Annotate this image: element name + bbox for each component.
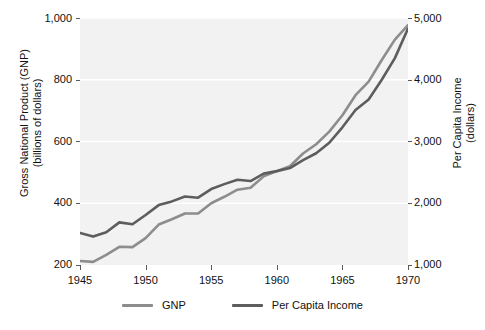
x-tick-label-1960: 1960 (247, 275, 307, 286)
legend-label-gnp: GNP (162, 300, 186, 311)
series-line-per-capita-income (80, 29, 408, 237)
y2-tickmark-5000 (408, 18, 412, 19)
x-tickmark-1960 (277, 265, 278, 270)
y-tick-label-200: 200 (12, 259, 72, 270)
chart-container: 200 400 600 800 1,000 1,000 2,000 3,000 … (0, 0, 485, 330)
x-tick-label-1965: 1965 (312, 275, 372, 286)
y-tick-label-1000: 1,000 (12, 13, 72, 24)
y2-tick-label-5000: 5,000 (414, 13, 442, 24)
plot-canvas (80, 18, 408, 265)
y2-axis-title: Per Capita Income(dollars) (451, 28, 477, 218)
x-tick-label-1945: 1945 (50, 275, 110, 286)
x-tick-label-1955: 1955 (181, 275, 241, 286)
y-tickmark-800 (76, 80, 80, 81)
x-tickmark-1965 (342, 265, 343, 270)
y2-tickmark-2000 (408, 203, 412, 204)
legend-item-per-capita-income[interactable]: Per Capita Income (232, 300, 363, 311)
x-tickmark-1950 (146, 265, 147, 270)
y-tickmark-400 (76, 203, 80, 204)
gridlines (80, 18, 408, 203)
y2-tickmark-4000 (408, 80, 412, 81)
y2-tick-label-4000: 4,000 (414, 74, 442, 85)
y-axis-title: GNP Gross National Product (GNP)(billion… (18, 28, 44, 218)
x-tickmark-1945 (80, 265, 81, 270)
y2-tick-label-2000: 2,000 (414, 197, 442, 208)
legend-swatch-gnp (122, 304, 153, 307)
x-tick-label-1970: 1970 (378, 275, 438, 286)
y-tickmark-600 (76, 141, 80, 142)
x-tickmark-1970 (408, 265, 409, 270)
y-tickmark-1000 (76, 18, 80, 19)
legend-label-per-capita-income: Per Capita Income (272, 300, 363, 311)
series-line-gnp (80, 25, 408, 262)
y2-tickmark-3000 (408, 141, 412, 142)
x-tickmark-1955 (211, 265, 212, 270)
x-tick-label-1950: 1950 (116, 275, 176, 286)
plot-area (80, 18, 408, 265)
chart-legend: GNP Per Capita Income (0, 300, 485, 311)
legend-item-gnp[interactable]: GNP (122, 300, 186, 311)
legend-swatch-per-capita-income (232, 304, 263, 307)
y2-tick-label-1000: 1,000 (414, 259, 442, 270)
y2-tick-label-3000: 3,000 (414, 136, 442, 147)
